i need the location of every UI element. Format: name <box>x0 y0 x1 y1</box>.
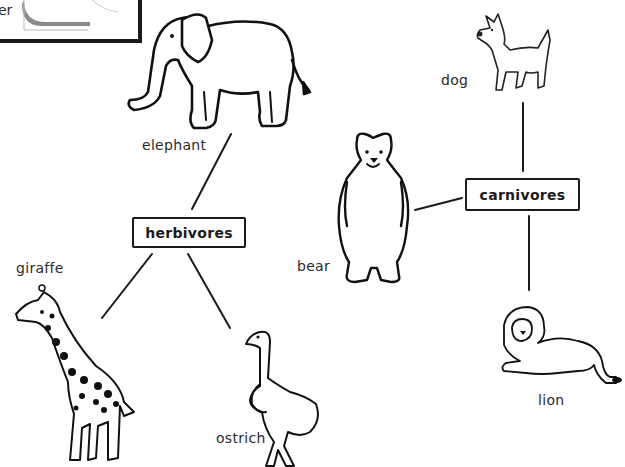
category-herbivores: herbivores <box>132 217 246 248</box>
label-elephant: elephant <box>142 137 206 153</box>
label-ostrich: ostrich <box>216 430 266 446</box>
label-lion: lion <box>538 392 564 408</box>
ostrich-icon <box>240 328 325 467</box>
line-bear-carnivores <box>415 198 462 210</box>
dog-icon <box>470 10 560 100</box>
line-herbivores-ostrich <box>188 254 230 328</box>
label-bear: bear <box>297 258 330 274</box>
category-carnivores: carnivores <box>465 178 580 211</box>
diagram-canvas: er herbivores carnivores el <box>0 0 625 467</box>
lion-icon <box>498 305 625 390</box>
elephant-icon <box>120 0 320 140</box>
label-giraffe: giraffe <box>16 260 64 276</box>
giraffe-icon <box>12 282 142 467</box>
bear-icon <box>335 130 415 285</box>
label-dog: dog <box>441 72 468 88</box>
